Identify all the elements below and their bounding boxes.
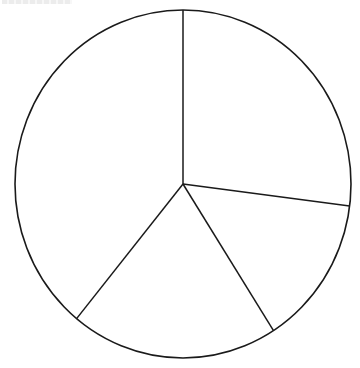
pie-chart	[0, 0, 360, 368]
pie-slice-1	[183, 10, 351, 206]
